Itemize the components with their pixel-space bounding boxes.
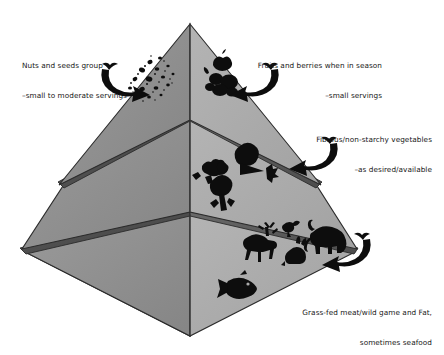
label-meat-line1: Grass-fed meat/wild game and Fat, bbox=[276, 308, 432, 318]
tomato-icon bbox=[217, 162, 227, 172]
label-vegetables-line1: Fibrous/non-starchy vegetables bbox=[268, 135, 432, 145]
diagram-canvas: Nuts and seeds group –small to moderate … bbox=[0, 0, 444, 355]
label-nuts-line1: Nuts and seeds group bbox=[22, 61, 127, 71]
label-meat-line2: sometimes seafood bbox=[276, 338, 432, 348]
label-fruits-and-berries: Fruits and berries when in season –small… bbox=[236, 41, 382, 121]
label-meat-and-fat: Grass-fed meat/wild game and Fat, someti… bbox=[276, 288, 432, 355]
label-vegetables-line2: –as desired/available bbox=[268, 165, 432, 175]
label-nuts-line2: –small to moderate servings bbox=[22, 91, 127, 101]
label-nuts-and-seeds: Nuts and seeds group –small to moderate … bbox=[22, 41, 127, 121]
label-fruits-line1: Fruits and berries when in season bbox=[236, 61, 382, 71]
label-fruits-line2: –small servings bbox=[236, 91, 382, 101]
label-vegetables: Fibrous/non-starchy vegetables –as desir… bbox=[268, 115, 432, 195]
